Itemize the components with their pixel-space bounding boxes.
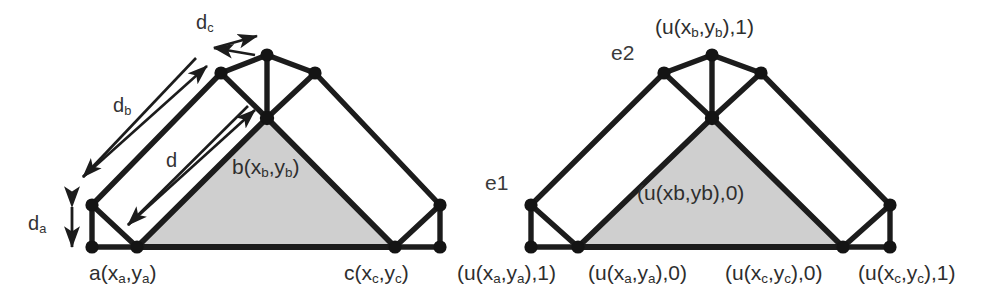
right-graph — [524, 48, 896, 253]
label-u-b-0: (u(xb,yb),0) — [637, 182, 744, 203]
node — [883, 198, 896, 211]
label-dc: dc — [196, 12, 214, 32]
node — [433, 198, 446, 211]
arrow-dc-2 — [214, 36, 257, 48]
node-e1 — [524, 198, 537, 211]
label-vertex-a: a(xa,ya) — [89, 262, 157, 283]
diagram-svg — [0, 0, 1005, 300]
arrow-dc — [214, 48, 255, 55]
node — [214, 66, 227, 79]
node — [433, 240, 446, 253]
label-u-a-0: (u(xa,ya),0) — [588, 262, 687, 283]
node — [308, 66, 321, 79]
arrow-db-2 — [83, 66, 207, 177]
label-e2: e2 — [611, 42, 634, 63]
left-graph — [72, 36, 447, 254]
label-da: da — [28, 213, 46, 233]
label-db: db — [113, 95, 131, 115]
node — [754, 66, 767, 79]
node — [571, 240, 584, 253]
node — [883, 240, 896, 253]
node — [85, 198, 98, 211]
node — [705, 48, 718, 61]
label-u-c-1: (u(xc,yc),1) — [858, 262, 955, 283]
node-a — [130, 240, 143, 253]
node — [85, 240, 98, 253]
label-u-a-1: (u(xa,ya),1) — [457, 262, 556, 283]
label-vertex-b: b(xb,yb) — [232, 156, 300, 177]
label-u-b-1: (u(xb,yb),1) — [655, 16, 754, 37]
node — [524, 240, 537, 253]
label-e1: e1 — [485, 172, 508, 193]
node — [836, 240, 849, 253]
node-e2 — [657, 66, 670, 79]
node — [705, 111, 719, 125]
node-c — [388, 240, 401, 253]
figure-container: dc db d da b(xb,yb) a(xa,ya) c(xc,yc) (u… — [0, 0, 1005, 300]
label-d: d — [166, 150, 177, 170]
node-b — [260, 111, 274, 125]
label-u-c-0: (u(xc,yc),0) — [725, 262, 822, 283]
label-vertex-c: c(xc,yc) — [344, 262, 409, 283]
node — [260, 48, 273, 61]
